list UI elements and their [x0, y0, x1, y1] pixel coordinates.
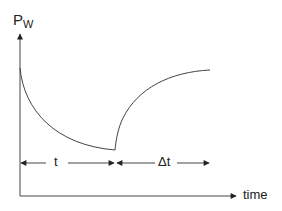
y-axis-label-main: P [13, 11, 23, 28]
x-axis-label: time [243, 188, 268, 201]
y-axis-label-sub: W [23, 18, 33, 30]
interval-dt-label: Δt [158, 155, 170, 168]
interval-t-label: t [54, 155, 58, 168]
pressure-curve [20, 68, 210, 150]
y-axis-label: PW [13, 12, 33, 27]
pressure-time-diagram [0, 0, 282, 211]
